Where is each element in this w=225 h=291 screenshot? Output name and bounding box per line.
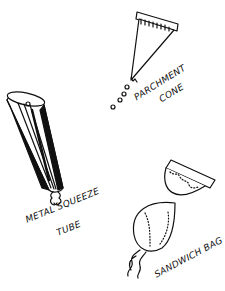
piping-tools-illustration: PARCHMENT CONE METAL SQUEEZE TUBE SANDWI… (0, 0, 225, 291)
drawing-canvas (0, 0, 225, 291)
metal-squeeze-tube-drawing (6, 89, 63, 205)
